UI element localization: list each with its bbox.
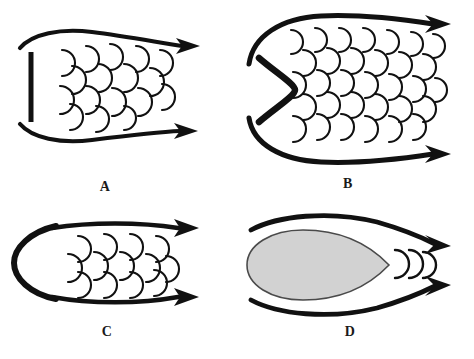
body-concave-cup — [259, 58, 295, 122]
streamline-top — [52, 224, 178, 229]
flow-diagram-figure: A — [0, 0, 474, 359]
streamline-top — [249, 16, 433, 64]
wake-vortices — [395, 250, 436, 278]
panel-label-d: D — [330, 324, 370, 340]
panel-a — [0, 0, 237, 180]
streamline-top — [20, 31, 182, 48]
body-teardrop — [247, 230, 389, 300]
wake-vortices — [291, 28, 447, 142]
body-convex-nose — [14, 226, 56, 299]
arrowhead-bottom — [425, 276, 451, 296]
wake-vortices — [60, 44, 175, 132]
panel-b — [237, 0, 474, 180]
arrowhead-top — [425, 235, 451, 254]
teardrop-fill — [247, 230, 389, 300]
streamline-bottom — [52, 297, 178, 302]
panel-label-c: C — [87, 324, 127, 340]
wake-vortices — [68, 234, 179, 298]
streamline-bottom — [20, 124, 180, 141]
